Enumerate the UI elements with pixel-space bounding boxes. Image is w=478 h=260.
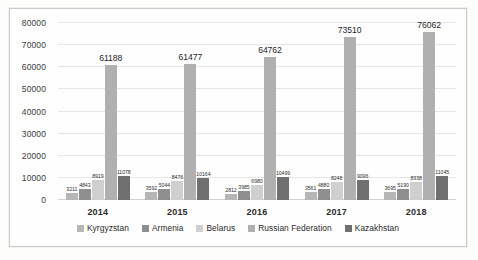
bar-value-label: 6980 (251, 178, 262, 184)
bar[interactable] (118, 176, 130, 201)
bar-value-label: 4880 (318, 182, 329, 188)
bar-column[interactable]: 4843 (79, 23, 91, 200)
bar-value-label: 3695 (385, 185, 396, 191)
bar-group-bars: 3695519083387606211045 (376, 23, 456, 200)
bar-value-label: 3985 (238, 184, 249, 190)
bar-column[interactable]: 76062 (423, 23, 435, 200)
bar[interactable] (105, 65, 117, 200)
legend-swatch-icon (77, 225, 84, 232)
bar-column[interactable]: 10499 (277, 23, 289, 200)
bar[interactable] (357, 180, 369, 200)
bar-value-label: 10164 (196, 171, 210, 177)
bar-value-label: 11078 (117, 169, 131, 175)
y-axis-tick-label: 30000 (22, 129, 46, 139)
bar-value-label: 10499 (276, 170, 290, 176)
y-axis-tick-label: 10000 (22, 173, 46, 183)
bar[interactable] (277, 177, 289, 200)
x-axis-tick-label: 2014 (58, 207, 138, 217)
chart-page: 0100002000030000400005000060000700008000… (0, 0, 478, 260)
bar[interactable] (225, 194, 237, 200)
chart-frame: 0100002000030000400005000060000700008000… (9, 8, 467, 247)
y-axis-tick-label: 70000 (22, 40, 46, 50)
bar-column[interactable]: 8476 (171, 23, 183, 200)
bar-column[interactable]: 8338 (410, 23, 422, 200)
bar[interactable] (197, 178, 209, 200)
bar-column[interactable]: 4880 (318, 23, 330, 200)
bar-value-label: 11045 (435, 169, 449, 175)
bar-column[interactable]: 2812 (225, 23, 237, 200)
chart-legend: KyrgyzstanArmeniaBelarusRussian Federati… (10, 223, 466, 233)
bar-column[interactable]: 5190 (397, 23, 409, 200)
bar-column[interactable]: 10164 (197, 23, 209, 200)
bar-column[interactable]: 11078 (118, 23, 130, 200)
bar-value-label: 5044 (159, 182, 170, 188)
bar-value-label: 4843 (79, 182, 90, 188)
bar-group: 32114843891961188110782014 (58, 23, 138, 200)
plot-area: 0100002000030000400005000060000700008000… (58, 23, 456, 200)
bar-column[interactable]: 8919 (92, 23, 104, 200)
bar[interactable] (171, 181, 183, 200)
bar[interactable] (344, 37, 356, 200)
bar-column[interactable]: 3695 (384, 23, 396, 200)
bar[interactable] (423, 32, 435, 200)
bar-group-bars: 3592504484766147710164 (138, 23, 218, 200)
bar[interactable] (410, 182, 422, 200)
bar-value-label: 3561 (305, 185, 316, 191)
bar[interactable] (238, 191, 250, 200)
y-axis-tick-label: 20000 (22, 151, 46, 161)
x-axis-tick-label: 2017 (297, 207, 377, 217)
bar[interactable] (158, 189, 170, 200)
bar-group: 28123985698064762104992016 (217, 23, 297, 200)
legend-item-label: Russian Federation (258, 223, 332, 233)
bar[interactable] (305, 192, 317, 200)
bar-column[interactable]: 3211 (66, 23, 78, 200)
legend-item[interactable]: Kazakhstan (345, 223, 399, 233)
bar-value-label: 2812 (225, 187, 236, 193)
bar-column[interactable]: 9096 (357, 23, 369, 200)
bar-column[interactable]: 8248 (331, 23, 343, 200)
bar-value-label: 3211 (66, 186, 77, 192)
bar[interactable] (66, 193, 78, 200)
bar[interactable] (318, 189, 330, 200)
bar-value-label: 8248 (331, 175, 342, 181)
y-axis-tick-label: 40000 (22, 107, 46, 117)
legend-item-label: Belarus (206, 223, 235, 233)
bar-column[interactable]: 5044 (158, 23, 170, 200)
legend-item[interactable]: Belarus (196, 223, 235, 233)
bar-column[interactable]: 3592 (145, 23, 157, 200)
y-axis-tick-label: 0 (41, 195, 46, 205)
bar[interactable] (264, 57, 276, 200)
bar[interactable] (251, 185, 263, 200)
bar-column[interactable]: 64762 (264, 23, 276, 200)
bar[interactable] (331, 182, 343, 200)
bar[interactable] (184, 64, 196, 200)
y-axis-tick-label: 80000 (22, 18, 46, 28)
legend-swatch-icon (142, 225, 149, 232)
bar-group: 35925044847661477101642015 (138, 23, 218, 200)
legend-item-label: Kazakhstan (355, 223, 399, 233)
bar-column[interactable]: 11045 (436, 23, 448, 200)
legend-item[interactable]: Armenia (142, 223, 184, 233)
bar-group-bars: 3211484389196118811078 (58, 23, 138, 200)
bar-column[interactable]: 3561 (305, 23, 317, 200)
bar[interactable] (145, 192, 157, 200)
legend-item[interactable]: Russian Federation (248, 223, 332, 233)
bar-value-label: 8476 (172, 174, 183, 180)
bar-column[interactable]: 61188 (105, 23, 117, 200)
legend-item-label: Kyrgyzstan (87, 223, 129, 233)
bar[interactable] (384, 192, 396, 200)
bar-value-label: 3592 (146, 185, 157, 191)
bar-column[interactable]: 3985 (238, 23, 250, 200)
bar-group: 36955190833876062110452018 (376, 23, 456, 200)
y-axis-tick-label: 60000 (22, 62, 46, 72)
bar[interactable] (92, 180, 104, 200)
legend-item-label: Armenia (152, 223, 184, 233)
bar-column[interactable]: 73510 (344, 23, 356, 200)
bar[interactable] (436, 176, 448, 200)
bar[interactable] (79, 189, 91, 200)
bar[interactable] (397, 189, 409, 200)
bar-group-bars: 356148808248735109096 (297, 23, 377, 200)
legend-swatch-icon (248, 225, 255, 232)
bar-column[interactable]: 61477 (184, 23, 196, 200)
legend-item[interactable]: Kyrgyzstan (77, 223, 129, 233)
